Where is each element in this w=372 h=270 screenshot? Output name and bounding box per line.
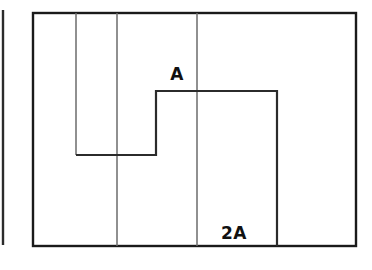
label-2a: 2A — [221, 223, 247, 243]
figure-diagram: A 2A — [0, 0, 372, 270]
figure-container: A 2A — [0, 0, 372, 270]
figure-background — [0, 0, 372, 270]
label-a: A — [170, 64, 184, 84]
